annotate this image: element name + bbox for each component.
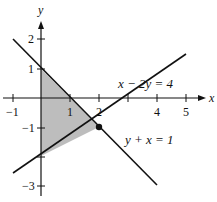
x-tick-label: 2 bbox=[96, 105, 102, 119]
x-tick-label: −1 bbox=[6, 105, 19, 119]
equation-label-line-1: x − 2y = 4 bbox=[117, 76, 174, 91]
y-tick-label: −3 bbox=[22, 179, 35, 193]
line-y-plus-x-eq-1 bbox=[13, 39, 157, 185]
y-axis-label: y bbox=[37, 3, 44, 17]
equation-label-line-2: y + x = 1 bbox=[123, 132, 174, 147]
intersection-point bbox=[96, 124, 102, 130]
y-axis-arrow-icon bbox=[38, 21, 44, 29]
x-axis-arrow-icon bbox=[198, 95, 206, 101]
x-tick-label: 5 bbox=[183, 105, 189, 119]
x-axis-label: x bbox=[208, 91, 215, 105]
y-tick-label: 1 bbox=[28, 62, 34, 76]
y-tick-label: −1 bbox=[22, 121, 35, 135]
y-tick-label: 2 bbox=[28, 32, 34, 46]
x-tick-label: 4 bbox=[154, 105, 160, 119]
graph: x y −1 1 2 4 5 2 1 −1 −3 x − 2y = 4 y + … bbox=[0, 0, 217, 202]
x-tick-label: 1 bbox=[67, 105, 73, 119]
